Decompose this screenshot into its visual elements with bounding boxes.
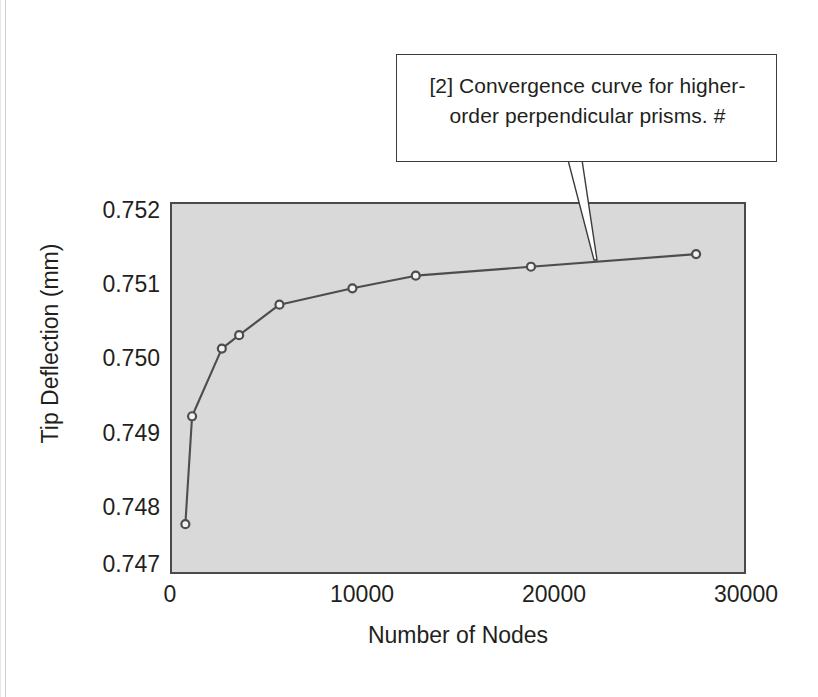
callout-tail	[560, 160, 610, 262]
y-tick-label: 0.752	[50, 199, 160, 222]
data-point	[348, 284, 356, 292]
data-point	[188, 412, 196, 420]
scan-artifact-line	[5, 0, 6, 697]
data-point	[218, 345, 226, 353]
data-point	[275, 301, 283, 309]
scan-artifact-outer	[0, 0, 1, 697]
y-tick-label: 0.748	[50, 496, 160, 519]
x-tick-label: 0	[100, 583, 240, 606]
callout-line-1: [2] Convergence curve for higher-	[429, 74, 745, 97]
y-tick-label: 0.749	[50, 422, 160, 445]
series-line	[185, 254, 696, 524]
series-markers	[181, 250, 700, 528]
x-axis-title: Number of Nodes	[268, 622, 648, 649]
data-point	[181, 520, 189, 528]
annotation-callout[interactable]: [2] Convergence curve for higher- order …	[396, 54, 777, 162]
x-tick-label: 10000	[292, 583, 432, 606]
x-tick-label: 20000	[484, 583, 624, 606]
data-point	[527, 263, 535, 271]
y-axis-title: Tip Deflection (mm)	[37, 194, 64, 494]
data-point	[235, 331, 243, 339]
x-tick-label: 30000	[676, 583, 816, 606]
y-tick-label: 0.751	[50, 273, 160, 296]
data-point	[692, 250, 700, 258]
chart-canvas	[170, 202, 746, 574]
figure-page: [2] Convergence curve for higher- order …	[0, 0, 818, 697]
data-point	[412, 272, 420, 280]
callout-text: [2] Convergence curve for higher- order …	[397, 71, 778, 131]
y-tick-label: 0.747	[50, 553, 160, 576]
callout-line-2: order perpendicular prisms. #	[449, 104, 725, 127]
y-tick-label: 0.750	[50, 347, 160, 370]
